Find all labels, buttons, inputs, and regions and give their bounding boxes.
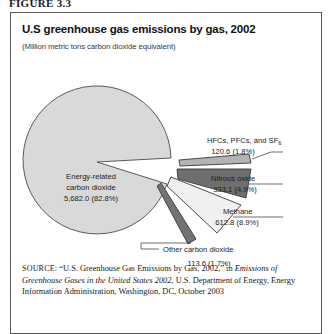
callout-label-other-co2-name: Other carbon dioxide [163,245,234,254]
callout-label-nitrous-oxide-value: 333.1 (4.9%) [213,185,257,194]
source-note: SOURCE: “U.S. Greenhouse Gas Emissions b… [22,263,310,298]
pie-label-energy-line1: Energy-related [66,172,116,181]
source-prefix: SOURCE: [22,264,57,273]
pie-label-energy-line2: carbon dioxide [66,183,115,192]
pie-label-energy-value-percent: (82.8%) [91,194,118,203]
callout-label-nitrous-oxide-name: Nitrous oxide [211,174,255,183]
source-quoted-title: “U.S. Greenhouse Gas Emissions by Gas, 2… [59,264,224,273]
chart-subtitle: (Million metric tons carbon dioxide equi… [22,42,175,51]
callout-label-hfcs-subscript: 6 [278,140,281,146]
pie-chart-svg: Energy-related carbon dioxide 5,682.0 (8… [11,57,321,257]
leader-line-hfcs-pfcs-sf6 [252,152,283,159]
callout-label-hfcs-name: HFCs, PFCs, and SF6 [207,136,281,146]
callout-label-methane-value: 612.8 (8.9%) [215,218,259,227]
pie-slice-energy-related-carbon-dioxide[interactable] [23,86,171,234]
callout-label-methane-name: Methane [223,207,253,216]
chart-title: U.S greenhouse gas emissions by gas, 200… [22,23,255,35]
source-connector: in [226,264,233,273]
pie-chart: Energy-related carbon dioxide 5,682.0 (8… [11,57,321,257]
pie-label-energy-value: 5,682.0 (82.8%) [64,194,119,203]
pie-label-energy-value-number: 5,682.0 [64,194,89,203]
figure-frame: U.S greenhouse gas emissions by gas, 200… [10,12,322,334]
callout-label-hfcs-value: 120.6 (1.8%) [211,147,255,156]
figure-label: FIGURE 3.3 [9,0,71,9]
